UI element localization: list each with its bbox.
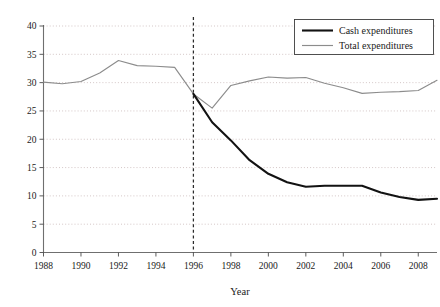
gridline-group <box>44 26 438 253</box>
x-tick-label: 1998 <box>221 261 240 271</box>
x-tick-label: 2000 <box>259 261 278 271</box>
x-tick-label: 2004 <box>334 261 353 271</box>
x-tick-label: 1992 <box>109 261 128 271</box>
y-tick-label: 15 <box>27 163 37 173</box>
legend-label-cash-expenditures: Cash expenditures <box>339 25 413 36</box>
legend-label-total-expenditures: Total expenditures <box>339 40 413 51</box>
x-tick-label: 1988 <box>34 261 53 271</box>
x-tick-group <box>44 253 419 257</box>
y-tick-label: 20 <box>27 135 37 145</box>
y-tick-label: 0 <box>32 248 37 258</box>
x-tick-label: 1990 <box>71 261 90 271</box>
x-tick-label: 2006 <box>371 261 390 271</box>
chart-legend: Cash expenditures Total expenditures <box>295 20 434 55</box>
x-tick-label: 2008 <box>409 261 428 271</box>
x-tick-label-group: 1988199019921994199619982000200220042006… <box>34 261 428 271</box>
x-tick-label: 1996 <box>184 261 203 271</box>
series-line-total-expenditures <box>44 61 438 109</box>
y-tick-label: 30 <box>27 78 37 88</box>
y-tick-label: 5 <box>32 220 37 230</box>
x-tick-label: 2002 <box>296 261 315 271</box>
y-tick-label: 10 <box>27 191 37 201</box>
y-tick-label-group: 0510152025303540 <box>27 21 37 258</box>
y-tick-label: 40 <box>27 21 37 31</box>
expenditures-line-chart: 0510152025303540 19881990199219941996199… <box>0 0 440 307</box>
x-tick-label: 1994 <box>146 261 165 271</box>
series-line-cash-expenditures <box>193 94 437 200</box>
y-tick-label: 35 <box>27 50 37 60</box>
y-tick-group <box>40 26 44 253</box>
y-tick-label: 25 <box>27 106 37 116</box>
x-axis-title: Year <box>230 286 250 297</box>
chart-canvas: 0510152025303540 19881990199219941996199… <box>0 0 440 307</box>
